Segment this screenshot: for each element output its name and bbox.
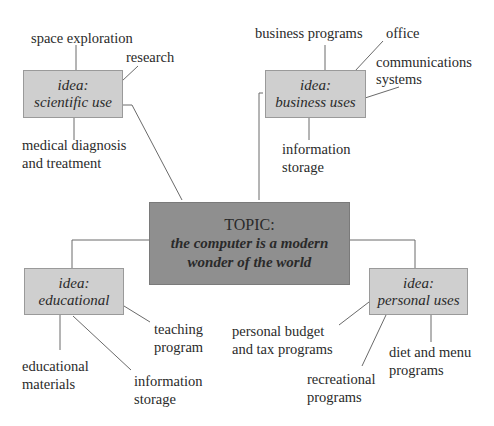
detail-teaching-2: program bbox=[154, 338, 203, 356]
detail-info-storage-1: information bbox=[282, 140, 350, 158]
idea-prefix: idea: bbox=[59, 275, 90, 292]
idea-prefix: idea: bbox=[403, 275, 434, 292]
topic-box: TOPIC: the computer is a modern wonder o… bbox=[149, 202, 350, 285]
detail-recreational-2: programs bbox=[307, 388, 362, 406]
detail-medical-1: medical diagnosis bbox=[22, 136, 126, 154]
detail-edu-info-2: storage bbox=[134, 390, 176, 408]
detail-teaching-1: teaching bbox=[154, 320, 203, 338]
detail-recreational-1: recreational bbox=[307, 370, 375, 388]
topic-line-1: the computer is a modern bbox=[171, 234, 329, 253]
detail-medical-2: and treatment bbox=[22, 154, 101, 172]
idea-name: scientific use bbox=[34, 94, 112, 111]
detail-edu-materials-2: materials bbox=[22, 375, 75, 393]
idea-personal-uses: idea: personal uses bbox=[369, 268, 468, 315]
idea-name: business uses bbox=[275, 94, 355, 111]
idea-scientific-use: idea: scientific use bbox=[23, 70, 123, 118]
detail-space-exploration: space exploration bbox=[31, 29, 133, 47]
idea-educational: idea: educational bbox=[24, 268, 124, 315]
detail-communications-2: systems bbox=[376, 70, 422, 88]
detail-budget-1: personal budget bbox=[232, 322, 324, 340]
detail-edu-info-1: information bbox=[134, 372, 202, 390]
detail-office: office bbox=[386, 24, 420, 42]
detail-research: research bbox=[126, 48, 174, 66]
idea-prefix: idea: bbox=[58, 77, 89, 94]
detail-business-programs: business programs bbox=[255, 24, 363, 42]
detail-diet-1: diet and menu bbox=[389, 343, 471, 361]
detail-budget-2: and tax programs bbox=[232, 340, 333, 358]
detail-diet-2: programs bbox=[389, 361, 444, 379]
detail-info-storage-2: storage bbox=[282, 158, 324, 176]
topic-line-2: wonder of the world bbox=[188, 253, 312, 272]
idea-name: educational bbox=[39, 292, 110, 309]
idea-name: personal uses bbox=[377, 292, 459, 309]
detail-communications-1: communications bbox=[376, 53, 472, 71]
detail-edu-materials-1: educational bbox=[22, 357, 89, 375]
idea-business-uses: idea: business uses bbox=[265, 70, 366, 118]
topic-heading: TOPIC: bbox=[224, 215, 274, 234]
idea-prefix: idea: bbox=[300, 77, 331, 94]
